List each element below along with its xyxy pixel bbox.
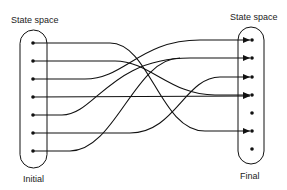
- arrow-7-to-2: [33, 58, 180, 151]
- final-state-dots: [250, 38, 254, 151]
- arrow-5-to-2: [33, 58, 250, 115]
- initial-state-space-oval: [20, 30, 47, 168]
- state-mapping-diagram: [0, 0, 287, 190]
- arrow-6-to-3: [33, 77, 250, 133]
- transition-arrows: [33, 40, 250, 151]
- arrow-4-to-4: [33, 96, 250, 97]
- arrow-3-to-1: [33, 40, 250, 79]
